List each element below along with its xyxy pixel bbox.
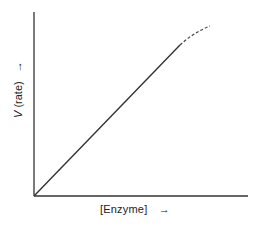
x-axis-label: [Enzyme] → xyxy=(100,203,170,215)
right-arrow-icon: → xyxy=(159,203,170,215)
curving-dashed-line xyxy=(180,26,210,45)
y-axis-variable: V xyxy=(12,111,24,118)
x-axis-label-text: [Enzyme] xyxy=(100,203,147,215)
up-arrow-icon: → xyxy=(12,61,24,72)
chart-canvas xyxy=(0,0,262,229)
y-axis-label: V (rate) → xyxy=(12,61,24,118)
y-axis-label-text: (rate) xyxy=(12,81,24,110)
linear-rate-line xyxy=(34,45,180,196)
